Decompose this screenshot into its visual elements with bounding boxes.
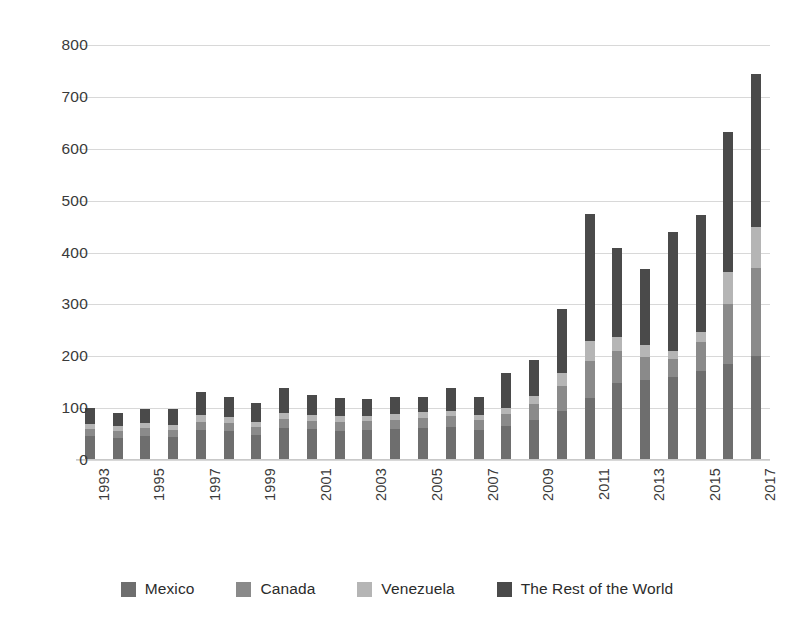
bar-segment (474, 397, 484, 415)
bar-column[interactable] (529, 360, 539, 460)
bar-column[interactable] (279, 388, 289, 460)
legend-item[interactable]: Venezuela (357, 580, 454, 598)
y-axis-tick-label: 100 (62, 399, 88, 417)
bar-segment (668, 377, 678, 460)
bar-column[interactable] (501, 373, 511, 460)
bar-column[interactable] (224, 397, 234, 460)
bar-segment (196, 392, 206, 416)
bar-segment (168, 437, 178, 460)
bar-column[interactable] (668, 232, 678, 460)
y-axis-tick-label: 800 (62, 36, 88, 54)
bar-segment (557, 386, 567, 411)
bar-segment (113, 431, 123, 438)
bar-column[interactable] (335, 398, 345, 460)
bar-segment (501, 373, 511, 408)
bar-segment (696, 371, 706, 460)
legend-item[interactable]: Canada (236, 580, 315, 598)
plot-area (76, 45, 770, 460)
y-axis-tick-label: 500 (62, 192, 88, 210)
legend-item[interactable]: Mexico (121, 580, 195, 598)
bar-column[interactable] (723, 132, 733, 460)
bar-segment (668, 232, 678, 350)
bar-segment (612, 248, 622, 336)
x-axis-tick-label: 1993 (96, 468, 112, 501)
y-axis-tick-label: 700 (62, 88, 88, 106)
bar-column[interactable] (751, 74, 761, 460)
bar-segment (529, 420, 539, 460)
bar-segment (362, 399, 372, 416)
bar-column[interactable] (446, 388, 456, 460)
bar-column[interactable] (585, 214, 595, 460)
bar-column[interactable] (474, 397, 484, 460)
bar-segment (85, 429, 95, 436)
bar-segment (446, 427, 456, 460)
legend-label: Mexico (145, 580, 195, 598)
bar-segment (418, 428, 428, 460)
x-axis-tick-label: 2011 (596, 468, 612, 500)
bar-column[interactable] (640, 269, 650, 460)
legend-swatch-icon (497, 582, 512, 597)
bar-segment (335, 431, 345, 460)
bar-segment (140, 428, 150, 436)
x-axis-tick-label: 2003 (373, 468, 389, 501)
x-axis-tick-label: 1995 (151, 468, 167, 501)
bar-segment (168, 409, 178, 425)
bar-column[interactable] (113, 413, 123, 460)
bar-column[interactable] (196, 392, 206, 460)
bar-segment (612, 383, 622, 460)
bar-segment (279, 388, 289, 413)
bar-segment (612, 351, 622, 383)
bar-segment (640, 357, 650, 380)
bar-segment (390, 429, 400, 460)
bar-segment (529, 404, 539, 420)
bar-segment (362, 430, 372, 460)
bar-column[interactable] (390, 397, 400, 460)
bar-segment (640, 380, 650, 460)
bar-column[interactable] (362, 399, 372, 460)
y-axis-tick-label: 300 (62, 295, 88, 313)
y-axis-tick-label: 200 (62, 347, 88, 365)
x-axis-tick-label: 1997 (207, 468, 223, 501)
bar-segment (335, 398, 345, 416)
bar-column[interactable] (557, 309, 567, 460)
bar-segment (113, 438, 123, 460)
bar-segment (279, 428, 289, 460)
bar-segment (751, 356, 761, 460)
bar-segment (585, 214, 595, 341)
bar-column[interactable] (251, 403, 261, 460)
bar-segment (557, 411, 567, 460)
bar-segment (501, 426, 511, 460)
stacked-bar-chart: 8007006005004003002001000 19931995199719… (0, 0, 794, 625)
bar-segment (307, 395, 317, 415)
bar-segment (751, 227, 761, 269)
bar-segment (390, 420, 400, 429)
x-axis-tick-label: 2005 (429, 468, 445, 501)
bar-segment (557, 309, 567, 373)
bar-column[interactable] (307, 395, 317, 460)
x-axis-baseline (76, 459, 770, 460)
legend-item[interactable]: The Rest of the World (497, 580, 674, 598)
bar-segment (751, 74, 761, 227)
bar-segment (585, 361, 595, 397)
y-axis-tick-label: 600 (62, 140, 88, 158)
bar-segment (140, 409, 150, 424)
bar-segment (307, 421, 317, 430)
bar-segment (529, 396, 539, 404)
bar-segment (612, 337, 622, 352)
bar-segment (224, 423, 234, 431)
bar-column[interactable] (140, 409, 150, 460)
bar-segment (723, 272, 733, 304)
bar-segment (696, 342, 706, 371)
bar-column[interactable] (168, 409, 178, 460)
bar-segment (362, 421, 372, 430)
bar-segment (446, 388, 456, 410)
bar-segment (668, 351, 678, 359)
bar-segment (390, 397, 400, 415)
bar-column[interactable] (418, 397, 428, 460)
y-axis-tick-label: 0 (79, 451, 88, 469)
bar-segment (251, 403, 261, 422)
bar-segment (585, 341, 595, 362)
bar-column[interactable] (696, 215, 706, 460)
bar-column[interactable] (612, 248, 622, 460)
bar-segment (168, 430, 178, 437)
